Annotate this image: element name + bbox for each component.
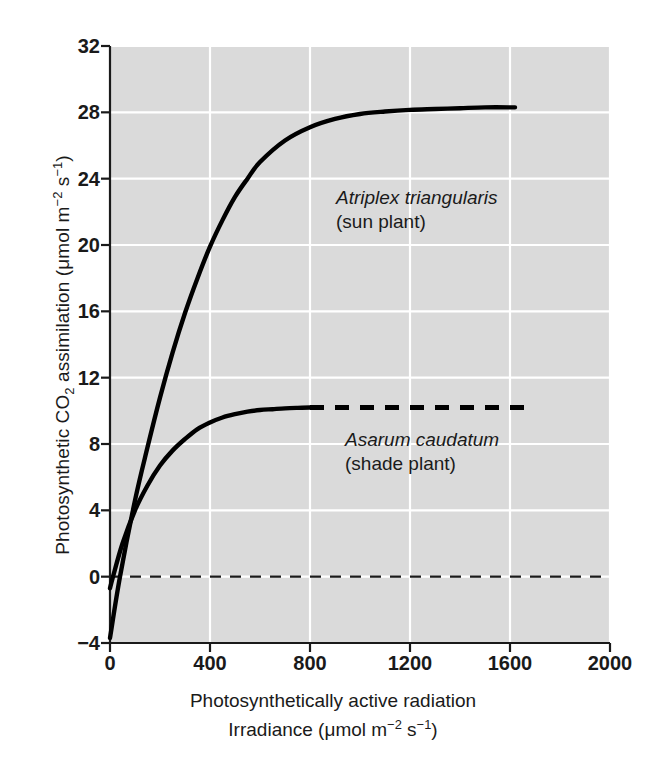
figure-container: Photosynthetic CO2 assimilation (μmol m−…: [0, 0, 666, 766]
x-axis-title-line2: Irradiance (μmol m−2 s−1): [0, 715, 666, 744]
x-axis-title-line2-sup1: −2: [387, 717, 402, 732]
x-tick-label: 400: [193, 652, 226, 675]
x-tick-label: 1600: [488, 652, 533, 675]
y-tick-label: 24: [58, 167, 100, 190]
y-tick-label: 32: [58, 35, 100, 58]
shade-plant-common-name: (shade plant): [345, 452, 499, 476]
shade-plant-species-name: Asarum caudatum: [345, 428, 499, 452]
x-axis-title: Photosynthetically active radiation Irra…: [0, 686, 666, 744]
y-tick-label: 12: [58, 366, 100, 389]
y-tick-label: 8: [58, 433, 100, 456]
x-axis-title-line2-mid: s: [402, 719, 417, 740]
sun-plant-annotation: Atriplex triangularis (sun plant): [336, 186, 498, 234]
x-axis-title-line2-pre: Irradiance (μmol m: [228, 719, 387, 740]
y-tick-label: 28: [58, 101, 100, 124]
y-tick-label: 20: [58, 234, 100, 257]
y-tick-label: 0: [58, 565, 100, 588]
x-axis-title-line2-post: ): [431, 719, 437, 740]
x-tick-label: 0: [104, 652, 115, 675]
x-tick-label: 800: [293, 652, 326, 675]
plot-background: [110, 46, 610, 643]
x-tick-label: 2000: [588, 652, 633, 675]
x-axis-title-line2-sup2: −1: [417, 717, 432, 732]
x-axis-title-line1: Photosynthetically active radiation: [190, 690, 476, 711]
sun-plant-species-name: Atriplex triangularis: [336, 186, 498, 210]
x-tick-label: 1200: [388, 652, 433, 675]
sun-plant-common-name: (sun plant): [336, 210, 498, 234]
y-tick-label: 16: [58, 300, 100, 323]
shade-plant-annotation: Asarum caudatum (shade plant): [345, 428, 499, 476]
y-tick-label: 4: [58, 499, 100, 522]
x-tick-labels: 0400800120016002000: [0, 652, 666, 682]
